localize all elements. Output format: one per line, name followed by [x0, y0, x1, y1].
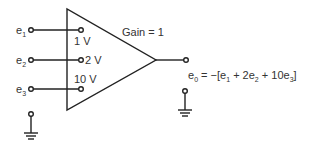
input-label-e2: e2 [16, 55, 26, 70]
weight-label-10v: 10 V [74, 74, 97, 85]
weight-label-1v: 1 V [74, 36, 91, 47]
input-label-e1: e1 [16, 25, 26, 40]
input-terminal-e3 [29, 87, 34, 92]
input-ground-terminal [29, 112, 34, 117]
input-terminal-e1 [29, 28, 34, 33]
weight-node-10v [79, 87, 84, 92]
output-terminal [184, 58, 189, 63]
gain-label: Gain = 1 [122, 27, 164, 38]
output-equation: e0 = −[e1 + 2e2 + 10e3] [188, 70, 297, 85]
output-ground-terminal [183, 89, 188, 94]
input-terminal-e2 [29, 58, 34, 63]
weight-node-2v [79, 58, 84, 63]
weight-node-1v [79, 28, 84, 33]
input-label-e3: e3 [16, 84, 26, 99]
weight-label-2v: 2 V [85, 55, 102, 66]
